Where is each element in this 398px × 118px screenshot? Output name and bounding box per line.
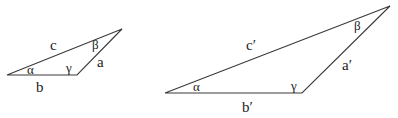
large-angle-beta-label: β — [354, 18, 361, 33]
large-side-c-label: c′ — [246, 37, 256, 53]
small-triangle-outline — [7, 29, 122, 75]
large-side-a-label: a′ — [342, 57, 352, 73]
diagram-svg: c b a α β γ c′ b′ a′ α β γ — [0, 0, 398, 118]
large-triangle: c′ b′ a′ α β γ — [165, 6, 390, 115]
small-angle-beta-label: β — [92, 37, 99, 52]
small-side-b-label: b — [36, 79, 44, 95]
small-angle-gamma-label: γ — [65, 60, 72, 75]
large-angle-alpha-label: α — [193, 79, 200, 94]
small-angle-alpha-label: α — [27, 62, 34, 77]
small-triangle: c b a α β γ — [7, 29, 122, 95]
large-angle-gamma-label: γ — [290, 78, 297, 93]
similar-triangles-diagram: c b a α β γ c′ b′ a′ α β γ — [0, 0, 398, 118]
small-side-c-label: c — [50, 37, 57, 53]
large-side-b-label: b′ — [242, 99, 253, 115]
small-side-a-label: a — [97, 54, 104, 70]
